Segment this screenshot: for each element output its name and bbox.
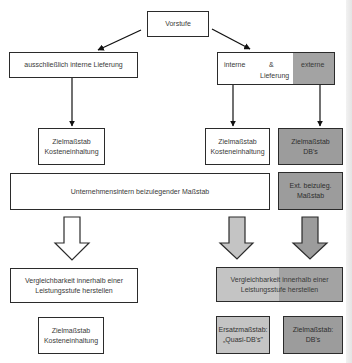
external-label: externe xyxy=(301,60,324,70)
internal-label: interne xyxy=(224,60,245,70)
branch-internal-part: interne & Lieferung xyxy=(218,53,293,84)
final-target-db: Zielmaßstab: DB's xyxy=(283,316,343,354)
arrow-root-to-right xyxy=(212,29,250,49)
arrow-root-to-left xyxy=(98,30,141,50)
target-db-right: Zielmaßstab DB's xyxy=(278,128,343,165)
ampersand-label: & xyxy=(269,60,274,70)
final-target-cost: Zielmaßstab Kosteneinhaltung xyxy=(38,317,104,354)
target-cost-left-label: Zielmaßstab Kosteneinhaltung xyxy=(44,137,98,157)
comparability-left: Vergleichbarkeit innerhalb einer Leistun… xyxy=(10,268,138,303)
final-target-cost-label: Zielmaßstab Kosteneinhaltung xyxy=(44,326,98,346)
target-cost-left: Zielmaßstab Kosteneinhaltung xyxy=(38,128,105,165)
external-measure: Ext. beizuleg. Maßstab xyxy=(278,172,343,210)
external-measure-label: Ext. beizuleg. Maßstab xyxy=(289,181,331,201)
internal-measure-label: Unternehmensintern beizulegender Maßstab xyxy=(71,187,210,197)
block-arrow-dark-grey xyxy=(293,217,327,259)
comparability-right: Vergleichbarkeit innerhalb einer Leistun… xyxy=(216,267,343,302)
root-node-vorstufe: Vorstufe xyxy=(147,11,209,37)
comparability-left-label: Vergleichbarkeit innerhalb einer Leistun… xyxy=(25,276,123,296)
branch-internal-external: interne & Lieferung externe xyxy=(217,52,335,85)
delivery-label: Lieferung xyxy=(260,71,289,81)
branch-internal-only-label: ausschließlich interne Lieferung xyxy=(24,60,122,70)
substitute-measure-quasi-db: Ersatzmaßstab: „Quasi-DB's" xyxy=(216,316,270,354)
block-arrow-light-grey xyxy=(220,217,253,259)
root-label: Vorstufe xyxy=(165,19,191,29)
final-target-db-label: Zielmaßstab: DB's xyxy=(293,325,333,345)
branch-internal-only: ausschließlich interne Lieferung xyxy=(9,52,138,78)
target-cost-middle-label: Zielmaßstab Kosteneinhaltung xyxy=(210,137,264,157)
branch-external-part: externe xyxy=(293,53,334,84)
target-db-right-label: Zielmaßstab DB's xyxy=(291,137,330,157)
target-cost-middle: Zielmaßstab Kosteneinhaltung xyxy=(205,128,270,165)
internal-measure: Unternehmensintern beizulegender Maßstab xyxy=(10,173,270,210)
substitute-measure-label: Ersatzmaßstab: „Quasi-DB's" xyxy=(218,325,267,345)
block-arrow-white xyxy=(55,217,89,260)
comparability-right-label: Vergleichbarkeit innerhalb einer Leistun… xyxy=(230,275,328,295)
